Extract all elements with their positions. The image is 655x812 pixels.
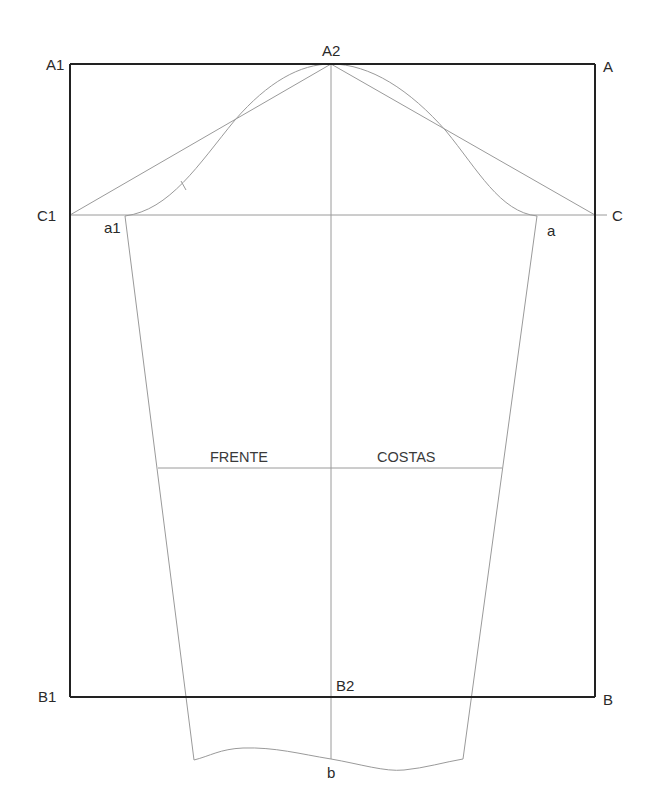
label-a-upper: A (603, 58, 613, 75)
label-a2: A2 (322, 42, 340, 59)
label-b1: B1 (38, 688, 56, 705)
label-frente: FRENTE (210, 449, 268, 465)
label-a1-upper: A1 (46, 56, 64, 73)
label-b2: B2 (336, 677, 354, 694)
label-b-upper: B (603, 691, 613, 708)
sleeve-pattern-diagram: A1 A2 A C1 C a1 a B1 B2 B b FRENTE COSTA… (0, 0, 655, 812)
diagonal-a2-c (331, 64, 595, 215)
label-c1: C1 (37, 207, 56, 224)
construction-lines (70, 64, 607, 770)
label-costas: COSTAS (377, 449, 436, 465)
label-a-lower: a (547, 222, 556, 239)
sleeve-side-back (463, 216, 537, 759)
label-c: C (612, 207, 623, 224)
sleeve-side-front (125, 216, 194, 760)
label-b-lower: b (327, 764, 335, 781)
frame (70, 64, 595, 697)
label-a1-lower: a1 (104, 219, 121, 236)
diagonal-c1-a2 (70, 64, 331, 215)
